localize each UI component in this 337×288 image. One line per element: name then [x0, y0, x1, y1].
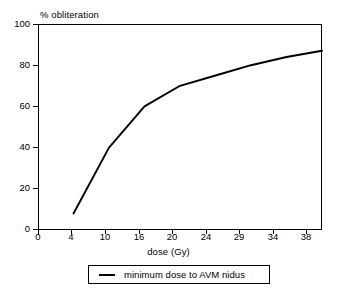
x-axis-tick-label-0: 0 [23, 232, 53, 242]
x-axis-title: dose (Gy) [0, 246, 337, 257]
y-axis-title: % obliteration [40, 9, 99, 20]
y-axis-tick-label-80: 80 [0, 60, 30, 70]
x-axis-tick-label-34: 34 [258, 232, 288, 242]
x-axis-tick-label-20: 20 [157, 232, 187, 242]
x-axis-tick-label-24: 24 [191, 232, 221, 242]
x-axis-tick-label-4: 4 [56, 232, 86, 242]
x-axis-tick-label-10: 10 [90, 232, 120, 242]
chart-container: % obliteration 100 80 60 40 20 0 0 4 10 … [0, 0, 337, 288]
y-axis-tick-label-100: 100 [0, 19, 30, 29]
legend-item-label: minimum dose to AVM nidus [124, 269, 245, 280]
legend-line-swatch-icon [99, 274, 115, 276]
y-axis-tick-label-40: 40 [0, 142, 30, 152]
x-axis-tick-label-16: 16 [124, 232, 154, 242]
series-line-minimum-dose-to-avm-nidus [38, 24, 322, 230]
y-axis-tick-label-60: 60 [0, 101, 30, 111]
legend: minimum dose to AVM nidus [88, 265, 270, 284]
x-axis-tick-label-38: 38 [291, 232, 321, 242]
y-axis-tick-label-20: 20 [0, 183, 30, 193]
x-axis-tick-label-29: 29 [224, 232, 254, 242]
